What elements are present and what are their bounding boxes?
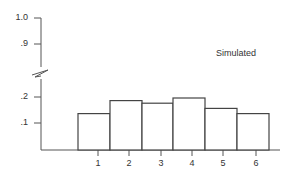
x-tick-label-2: 2 bbox=[122, 158, 136, 168]
axis-break-icon bbox=[32, 70, 48, 77]
x-tick-label-1: 1 bbox=[91, 158, 105, 168]
simulated-annotation: Simulated bbox=[216, 48, 256, 58]
y-tick-label-0.9: .9 bbox=[4, 38, 28, 48]
bar-4 bbox=[173, 98, 205, 150]
bar-1 bbox=[78, 114, 110, 150]
x-tick-label-6: 6 bbox=[249, 158, 263, 168]
bar-2 bbox=[110, 101, 142, 150]
bar-series bbox=[78, 98, 269, 150]
chart-canvas bbox=[0, 0, 290, 176]
y-tick-label-0.2: .2 bbox=[4, 91, 28, 101]
x-tick-label-3: 3 bbox=[154, 158, 168, 168]
y-tick-label-1.0: 1.0 bbox=[4, 12, 28, 22]
x-tick-label-5: 5 bbox=[216, 158, 230, 168]
y-tick-label-0.1: .1 bbox=[4, 117, 28, 127]
bar-6 bbox=[237, 114, 269, 150]
bar-5 bbox=[205, 108, 237, 150]
bar-3 bbox=[142, 103, 173, 150]
x-tick-label-4: 4 bbox=[185, 158, 199, 168]
